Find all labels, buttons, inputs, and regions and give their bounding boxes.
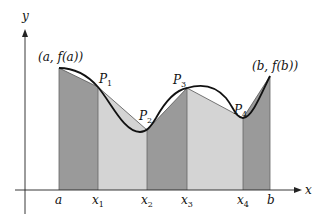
label-p3: P3 bbox=[172, 73, 186, 89]
label-p1: P1 bbox=[98, 72, 112, 88]
trapezoid-1 bbox=[59, 68, 98, 190]
trapezoid-diagram: x y a x1 x2 x3 x4 b P1 P2 P3 P4 (a, f(a)… bbox=[0, 0, 325, 223]
tick-a: a bbox=[55, 193, 62, 207]
y-axis-arrow bbox=[22, 29, 28, 37]
tick-x1: x1 bbox=[92, 193, 104, 209]
trapezoid-3 bbox=[147, 88, 187, 190]
tick-x2: x2 bbox=[141, 193, 153, 209]
tick-b: b bbox=[267, 193, 275, 207]
tick-x4: x4 bbox=[237, 193, 249, 209]
x-axis-arrow bbox=[294, 187, 302, 193]
label-p2: P2 bbox=[138, 109, 152, 125]
label-p4: P4 bbox=[233, 103, 247, 119]
label-endpoint-right: (b, f(b)) bbox=[252, 59, 298, 73]
trapezoid-5 bbox=[243, 76, 270, 190]
y-axis-label: y bbox=[21, 9, 29, 23]
x-axis-label: x bbox=[305, 183, 312, 197]
trapezoid-2 bbox=[98, 87, 147, 190]
tick-x3: x3 bbox=[181, 193, 193, 209]
label-endpoint-left: (a, f(a)) bbox=[38, 50, 83, 64]
